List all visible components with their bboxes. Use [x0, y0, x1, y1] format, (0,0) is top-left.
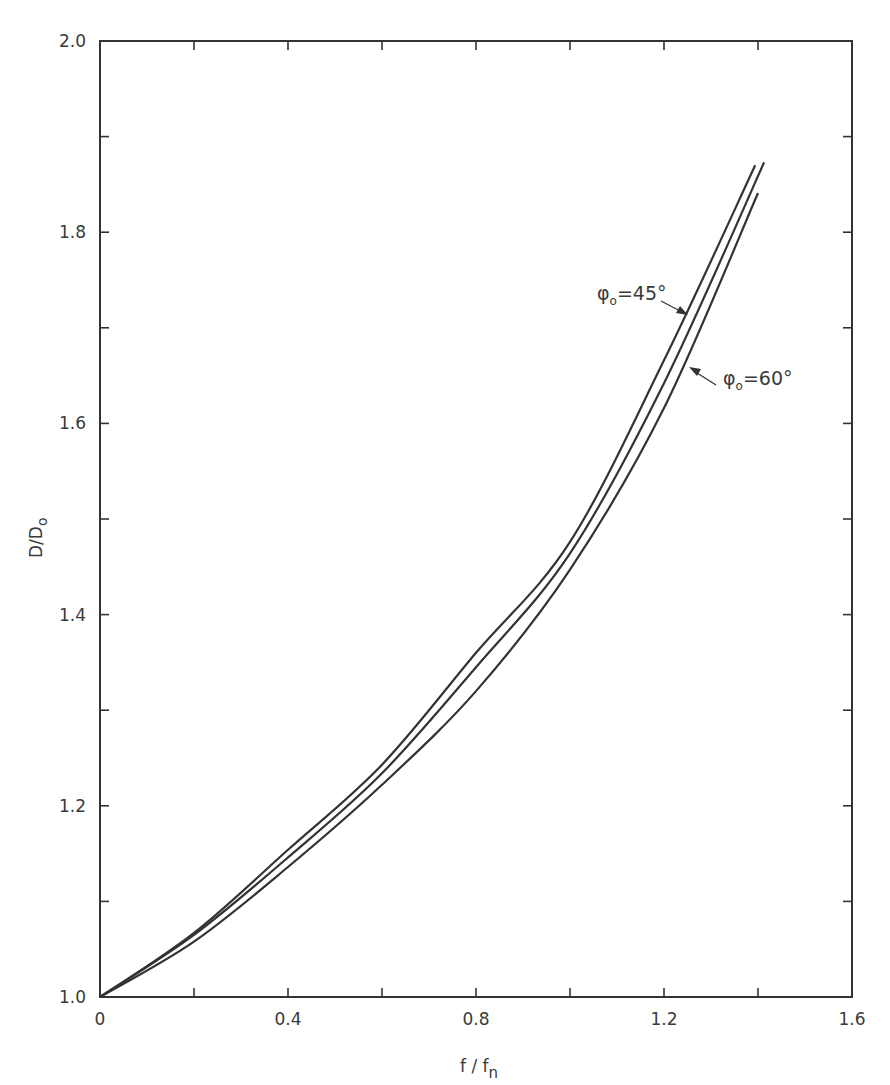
y-tick-label: 1.4 [59, 605, 86, 625]
x-tick-label: 1.6 [838, 1009, 865, 1029]
annotation-phi60: φo=60° [689, 367, 793, 393]
annotation-phi60-label: φo=60° [723, 367, 793, 393]
annotation-phi45: φo=45° [597, 282, 688, 315]
y-tick-label: 1.0 [59, 987, 86, 1007]
arrowhead-icon [676, 306, 688, 315]
y-tick-label: 1.8 [59, 222, 86, 242]
x-axis-label: f / fn [460, 1056, 498, 1082]
x-tick-label: 0.8 [462, 1009, 489, 1029]
y-tick-label: 2.0 [59, 31, 86, 51]
x-tick-label: 0 [95, 1009, 106, 1029]
x-tick-label: 0.4 [274, 1009, 301, 1029]
curve-series-2 [100, 193, 758, 997]
annotation-phi45-label: φo=45° [597, 282, 667, 308]
y-tick-label: 1.2 [59, 796, 86, 816]
axis-tick-labels: 00.40.81.21.61.01.21.41.61.82.0 [59, 31, 866, 1029]
x-tick-label: 1.2 [650, 1009, 677, 1029]
y-axis-label: D/Do [26, 518, 50, 559]
axis-ticks [100, 41, 852, 997]
y-tick-label: 1.6 [59, 413, 86, 433]
plot-frame [100, 41, 852, 997]
chart: 00.40.81.21.61.01.21.41.61.82.0 φo=45° φ… [0, 0, 890, 1085]
